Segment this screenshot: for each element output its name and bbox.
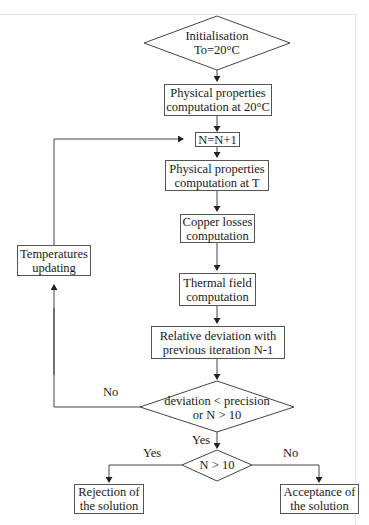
- increment-text: N=N+1: [198, 133, 236, 147]
- props20-line2: computation at 20°C: [166, 100, 270, 114]
- maxiter-decision: N > 10: [190, 458, 244, 472]
- thermal-box: Thermal field computation: [179, 273, 256, 306]
- copper-line1: Copper losses: [183, 215, 253, 229]
- update-line2: updating: [32, 261, 76, 275]
- maxiter-text: N > 10: [200, 458, 235, 472]
- label-convergence-no: No: [103, 385, 118, 399]
- convergence-line2: or N > 10: [193, 408, 241, 422]
- convergence-decision: deviation < precision or N > 10: [155, 394, 279, 422]
- accept-line2: the solution: [290, 499, 349, 513]
- reject-line2: the solution: [80, 499, 139, 513]
- propsT-line1: Physical properties: [169, 162, 264, 176]
- label-maxiter-no: No: [283, 446, 298, 460]
- update-box: Temperatures updating: [17, 245, 91, 276]
- label-convergence-yes: Yes: [192, 433, 210, 447]
- increment-box: N=N+1: [195, 132, 240, 147]
- deviation-line2: previous iteration N-1: [163, 343, 273, 357]
- init-decision: Initialisation To=20°C: [160, 28, 274, 58]
- props20-line1: Physical properties: [170, 86, 265, 100]
- thermal-line1: Thermal field: [183, 276, 251, 290]
- accept-box: Acceptance of the solution: [280, 484, 359, 514]
- init-line1: Initialisation: [185, 29, 248, 43]
- accept-line1: Acceptance of: [284, 485, 356, 499]
- thermal-line2: computation: [186, 290, 249, 304]
- propsT-line2: computation at T: [174, 176, 259, 190]
- copper-box: Copper losses computation: [180, 214, 255, 243]
- reject-box: Rejection of the solution: [74, 484, 144, 514]
- init-line2: To=20°C: [194, 43, 240, 57]
- deviation-line1: Relative deviation with: [160, 329, 277, 343]
- copper-line2: computation: [186, 229, 249, 243]
- props20-box: Physical properties computation at 20°C: [164, 84, 272, 116]
- reject-line1: Rejection of: [78, 485, 139, 499]
- update-line1: Temperatures: [20, 247, 88, 261]
- label-maxiter-yes: Yes: [143, 446, 161, 460]
- convergence-line1: deviation < precision: [164, 394, 270, 408]
- propsT-box: Physical properties computation at T: [165, 160, 269, 191]
- deviation-box: Relative deviation with previous iterati…: [151, 326, 285, 359]
